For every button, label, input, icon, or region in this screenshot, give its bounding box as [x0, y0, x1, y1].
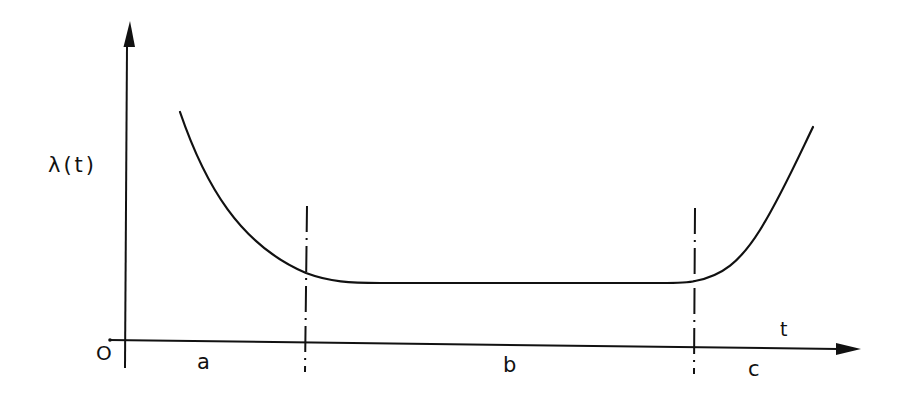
y-axis-label: λ(t) — [48, 153, 97, 177]
bathtub-curve-diagram: λ(t) t O a b c — [0, 0, 903, 398]
region-label-a: a — [197, 350, 210, 374]
region-label-c: c — [748, 357, 760, 381]
origin-label: O — [96, 341, 112, 365]
hazard-rate-curve — [180, 112, 813, 283]
divider-a-b — [305, 206, 307, 372]
x-axis — [108, 338, 861, 355]
y-axis-arrowhead-icon — [124, 21, 136, 47]
y-axis — [124, 21, 136, 368]
x-axis-label: t — [780, 318, 787, 340]
region-label-b: b — [503, 353, 516, 377]
divider-b-c — [694, 208, 695, 374]
x-axis-arrowhead-icon — [836, 343, 861, 355]
